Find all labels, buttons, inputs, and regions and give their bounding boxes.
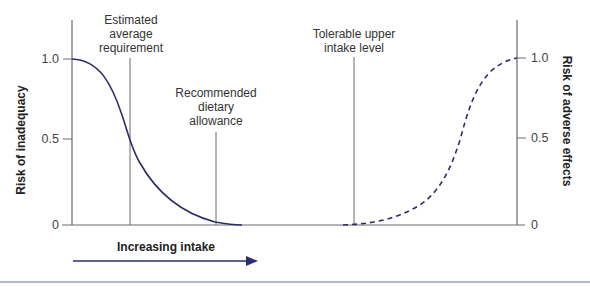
left-axis-title: Risk of inadequacy	[14, 85, 28, 195]
increasing-intake-label: Increasing intake	[117, 240, 215, 254]
left-tick-label-0: 0	[52, 218, 59, 232]
right-tick-label-1: 1.0	[531, 51, 548, 65]
ear-label-line-3: requirement	[99, 41, 164, 55]
left-tick-label-1: 1.0	[42, 52, 59, 66]
rda-label-line-2: dietary	[198, 100, 234, 114]
right-axis-title: Risk of adverse effects	[560, 56, 574, 187]
dietary-reference-intake-chart: 1.0 0.5 0 1.0 0.5 0 Risk of inadequacy R…	[0, 0, 590, 287]
right-tick-label-05: 0.5	[531, 131, 548, 145]
ul-label-line-1: Tolerable upper	[313, 27, 396, 41]
arrowhead-icon	[246, 256, 258, 266]
ul-label-line-2: intake level	[324, 41, 384, 55]
rda-label-line-1: Recommended	[175, 86, 256, 100]
left-tick-label-05: 0.5	[42, 132, 59, 146]
ear-label-line-2: average	[109, 27, 153, 41]
ear-label-line-1: Estimated	[104, 13, 157, 27]
right-tick-label-0: 0	[531, 218, 538, 232]
risk-of-adverse-effects-curve	[343, 58, 517, 225]
rda-label-line-3: allowance	[189, 114, 243, 128]
